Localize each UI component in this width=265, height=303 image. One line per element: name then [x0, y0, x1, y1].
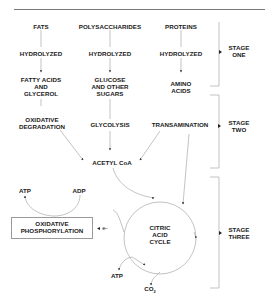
- proteins-hydrolyzed-label: HYDROLYZED: [153, 50, 209, 57]
- oxidative-degradation-line-1: OXIDATIVE: [14, 116, 70, 123]
- glucose-line-1: GLUCOSE: [82, 76, 138, 83]
- fatty-acids-line-1: FATTY ACIDS: [13, 76, 69, 83]
- proteins-label: PROTEINS: [160, 23, 202, 30]
- citric-acid-cycle-line-3: CYCLE: [138, 238, 182, 245]
- oxidative-phosphorylation-line-2: PHOSPHORYLATION: [11, 227, 93, 234]
- co2-text: CO: [144, 285, 153, 292]
- citric-acid-cycle-line-2: ACID: [138, 231, 182, 238]
- stage-three-label: STAGE THREE: [224, 226, 254, 240]
- oxidative-phosphorylation-label: OXIDATIVE PHOSPHORYLATION: [11, 220, 93, 234]
- glucose-line-2: AND OTHER: [82, 83, 138, 90]
- fats-label: FATS: [27, 23, 55, 30]
- polysaccharides-hydrolyzed-label: HYDROLYZED: [82, 50, 138, 57]
- stage-three-line-1: STAGE: [224, 226, 254, 233]
- co2-label: CO2: [141, 285, 159, 295]
- citric-acid-cycle-line-1: CITRIC: [138, 224, 182, 231]
- acetyl-coa-label: ACETYL CoA: [84, 159, 140, 166]
- transamination-label: TRANSAMINATION: [146, 121, 214, 128]
- fatty-acids-label: FATTY ACIDS AND GLYCEROL: [13, 76, 69, 98]
- oxidative-degradation-line-2: DEGRADATION: [14, 123, 70, 130]
- electron-label: e-: [100, 224, 110, 231]
- co2-subscript: 2: [154, 289, 156, 294]
- adp-label: ADP: [70, 187, 88, 194]
- stage-one-label: STAGE ONE: [224, 44, 254, 58]
- amino-acids-line-2: ACIDS: [160, 87, 202, 94]
- atp-bottom-label: ATP: [108, 272, 126, 279]
- stage-one-line-1: STAGE: [224, 44, 254, 51]
- citric-acid-cycle-label: CITRIC ACID CYCLE: [138, 224, 182, 246]
- stage-three-line-2: THREE: [224, 233, 254, 240]
- oxidative-degradation-label: OXIDATIVE DEGRADATION: [14, 116, 70, 130]
- oxidative-phosphorylation-line-1: OXIDATIVE: [11, 220, 93, 227]
- polysaccharides-label: POLYSACCHARIDES: [72, 23, 148, 30]
- glucose-line-3: SUGARS: [82, 90, 138, 97]
- fatty-acids-line-3: GLYCEROL: [13, 90, 69, 97]
- fats-hydrolyzed-label: HYDROLYZED: [13, 50, 69, 57]
- glycolysis-label: GLYCOLYSIS: [82, 121, 138, 128]
- glucose-label: GLUCOSE AND OTHER SUGARS: [82, 76, 138, 98]
- amino-acids-label: AMINO ACIDS: [160, 80, 202, 94]
- stage-two-label: STAGE TWO: [224, 119, 254, 133]
- stage-two-line-2: TWO: [224, 126, 254, 133]
- amino-acids-line-1: AMINO: [160, 80, 202, 87]
- stage-one-line-2: ONE: [224, 51, 254, 58]
- fatty-acids-line-2: AND: [13, 83, 69, 90]
- atp-top-label: ATP: [16, 187, 34, 194]
- stage-two-line-1: STAGE: [224, 119, 254, 126]
